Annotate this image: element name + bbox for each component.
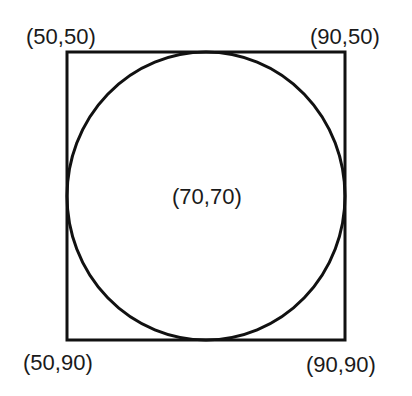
corner-label-bottom-left: (50,90) [23, 352, 93, 374]
corner-label-bottom-right: (90,90) [306, 354, 376, 376]
corner-label-top-left: (50,50) [26, 26, 96, 48]
corner-label-top-right: (90,50) [310, 26, 380, 48]
center-label: (70,70) [172, 186, 242, 208]
